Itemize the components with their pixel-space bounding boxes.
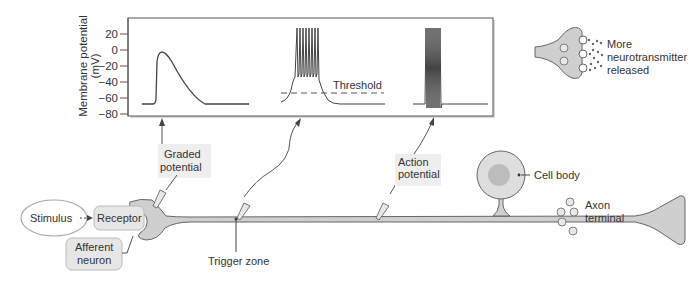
neurotransmitter-dots (588, 39, 603, 71)
trigger-zone-label: Trigger zone (208, 255, 269, 267)
trigger-wire (244, 120, 300, 197)
electrode-graded (153, 175, 177, 208)
svg-text:−20: −20 (98, 60, 118, 72)
svg-text:20: 20 (105, 28, 118, 40)
neuron-signaling-diagram: Membrane potential (mV) 20 0 −20 −40 −60… (0, 0, 695, 282)
graded-potential-label: Graded (164, 148, 201, 160)
svg-text:neuron: neuron (77, 254, 111, 266)
stimulus-label: Stimulus (30, 212, 73, 224)
svg-text:0: 0 (112, 44, 118, 56)
action-potential-label: Action (398, 156, 429, 168)
svg-text:neurotransmitter: neurotransmitter (607, 51, 687, 63)
arrow-icon (87, 215, 93, 221)
afferent-neuron-label: Afferent (75, 241, 113, 253)
svg-text:terminal: terminal (585, 212, 624, 224)
svg-text:potential: potential (160, 161, 202, 173)
svg-text:Membrane potential: Membrane potential (77, 15, 89, 117)
nucleus (488, 164, 510, 186)
axon-terminal-label: Axon (585, 199, 610, 211)
svg-text:−40: −40 (98, 76, 118, 88)
threshold-label: Threshold (333, 79, 382, 91)
axon-terminal-released (535, 28, 587, 79)
svg-text:−80: −80 (98, 108, 118, 120)
neurotransmitter-label: More (607, 38, 632, 50)
receptor-label: Receptor (97, 212, 142, 224)
svg-text:−60: −60 (98, 92, 118, 104)
svg-text:potential: potential (398, 168, 440, 180)
svg-text:released: released (607, 64, 649, 76)
cell-body-label: Cell body (534, 169, 580, 181)
